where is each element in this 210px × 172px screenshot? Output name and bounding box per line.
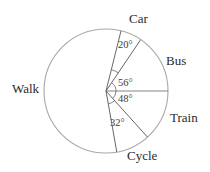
angle-label-car: 20° bbox=[118, 40, 133, 51]
label-train: Train bbox=[170, 111, 198, 124]
label-car: Car bbox=[129, 12, 148, 25]
angle-label-train: 48° bbox=[118, 94, 133, 105]
angle-label-bus: 56° bbox=[118, 78, 133, 89]
label-walk: Walk bbox=[12, 82, 39, 95]
label-bus: Bus bbox=[166, 54, 186, 67]
label-cycle: Cycle bbox=[127, 149, 157, 162]
angle-label-cycle: 32° bbox=[110, 118, 125, 129]
